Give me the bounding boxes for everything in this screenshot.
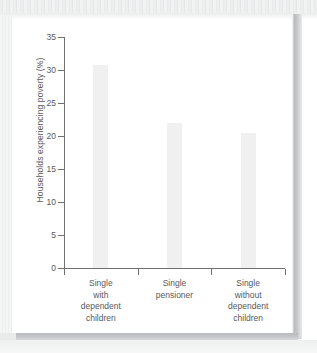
category-label: Singlepensioner — [139, 278, 211, 301]
scan-texture-bottom — [0, 340, 317, 353]
scanned-page: Households experiencing poverty (%) 0510… — [0, 0, 317, 353]
chart-card: Households experiencing poverty (%) 0510… — [14, 20, 292, 333]
bar — [241, 133, 256, 268]
bar-chart: Households experiencing poverty (%) 0510… — [14, 20, 292, 333]
x-axis-separator — [64, 269, 65, 275]
category-label-line: children — [65, 313, 137, 325]
scan-texture-left — [0, 16, 12, 336]
y-tick-mark — [58, 169, 64, 170]
category-label-line: dependent — [65, 301, 137, 313]
y-tick-mark — [58, 202, 64, 203]
bar — [167, 123, 182, 268]
category-label: Singlewithdependentchildren — [65, 278, 137, 324]
bar — [93, 65, 108, 268]
y-tick-mark — [58, 103, 64, 104]
category-label-line: children — [212, 313, 284, 325]
y-tick-mark — [58, 70, 64, 71]
y-tick-label: 5 — [22, 230, 56, 240]
y-tick-mark — [58, 37, 64, 38]
category-label-line: dependent — [212, 301, 284, 313]
y-axis-line — [64, 37, 65, 269]
y-tick-label: 35 — [22, 32, 56, 42]
y-tick-label: 30 — [22, 65, 56, 75]
y-tick-label: 0 — [22, 263, 56, 273]
y-tick-label: 25 — [22, 98, 56, 108]
x-axis-line — [64, 268, 285, 269]
category-label-line: Single — [212, 278, 284, 290]
x-axis-separator — [211, 269, 212, 275]
category-label-line: pensioner — [139, 290, 211, 302]
y-tick-mark — [58, 235, 64, 236]
y-tick-mark — [58, 136, 64, 137]
y-tick-label: 15 — [22, 164, 56, 174]
y-tick-label: 10 — [22, 197, 56, 207]
scan-texture-top-fade — [0, 13, 317, 20]
y-tick-label: 20 — [22, 131, 56, 141]
category-label-line: Single — [65, 278, 137, 290]
x-axis-separator — [138, 269, 139, 275]
x-axis-separator — [285, 269, 286, 275]
category-label-line: without — [212, 290, 284, 302]
category-label-line: with — [65, 290, 137, 302]
page-shadow-right — [292, 14, 302, 339]
category-label-line: Single — [139, 278, 211, 290]
category-label: Singlewithoutdependentchildren — [212, 278, 284, 324]
